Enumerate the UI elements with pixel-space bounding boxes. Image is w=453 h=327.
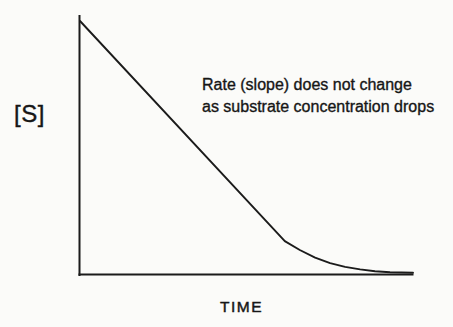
annotation-line-1: Rate (slope) does not change — [202, 74, 434, 96]
plot-area — [0, 0, 453, 327]
substrate-curve — [80, 21, 413, 273]
enzyme-kinetics-figure: [S] Rate (slope) does not change as subs… — [0, 0, 453, 327]
x-axis-label: TIME — [220, 299, 263, 315]
y-axis-label: [S] — [14, 102, 45, 126]
annotation-line-2: as substrate concentration drops — [202, 96, 434, 118]
annotation-text: Rate (slope) does not change as substrat… — [202, 74, 434, 118]
